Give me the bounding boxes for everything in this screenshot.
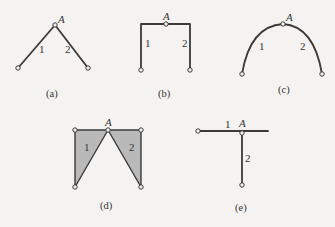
panel-a: A 1 2 (a) — [16, 13, 90, 100]
hinge-icon — [164, 22, 168, 26]
panel-b: A 1 2 (b) — [139, 10, 192, 100]
caption-c: (c) — [278, 84, 290, 96]
hinge-icon — [240, 183, 244, 187]
joint-label-d: A — [104, 116, 112, 128]
panel-e: A 1 2 (e) — [196, 117, 268, 214]
member-label-1-c: 1 — [259, 40, 265, 52]
member-label-2-b: 2 — [182, 37, 188, 49]
panel-c: A 1 2 (c) — [240, 11, 324, 96]
member-label-1-b: 1 — [145, 37, 151, 49]
panel-d: A 1 2 (d) — [73, 116, 143, 212]
plate-2-d — [108, 130, 141, 187]
hinge-icon — [196, 129, 200, 133]
joint-label-a: A — [57, 13, 65, 25]
plate-1-d — [75, 130, 108, 187]
caption-a: (a) — [46, 88, 58, 100]
hinge-icon — [16, 66, 20, 70]
hinge-icon — [139, 185, 143, 189]
caption-d: (d) — [100, 200, 113, 212]
hinge-icon — [139, 68, 143, 72]
hinge-icon — [73, 185, 77, 189]
hinge-icon — [139, 128, 143, 132]
structural-figure: A 1 2 (a) A 1 2 (b) A 1 2 (c) A 1 — [0, 0, 335, 227]
joint-label-c: A — [285, 11, 293, 23]
hinge-icon — [281, 22, 285, 26]
hinge-icon — [106, 128, 110, 132]
hinge-icon — [188, 68, 192, 72]
hinge-icon — [320, 72, 324, 76]
caption-e: (e) — [235, 202, 247, 214]
member-label-2-d: 2 — [129, 141, 135, 153]
member-label-2-a: 2 — [65, 43, 71, 55]
hinge-icon — [240, 131, 244, 135]
hinge-icon — [240, 72, 244, 76]
member-label-1-e: 1 — [225, 118, 231, 130]
hinge-icon — [53, 23, 57, 27]
member-label-1-d: 1 — [84, 141, 90, 153]
member-1-and-2-a — [18, 25, 88, 68]
member-label-1-a: 1 — [39, 43, 45, 55]
joint-label-e: A — [238, 117, 246, 129]
joint-label-b: A — [162, 10, 170, 22]
hinge-icon — [86, 66, 90, 70]
member-label-2-e: 2 — [245, 152, 251, 164]
caption-b: (b) — [158, 88, 171, 100]
hinge-icon — [73, 128, 77, 132]
member-label-2-c: 2 — [300, 40, 306, 52]
